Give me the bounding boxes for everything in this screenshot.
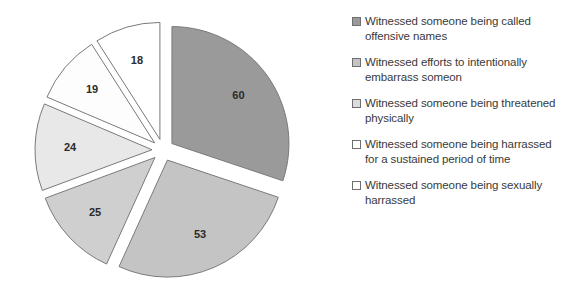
pie-slice-label-4: 19 xyxy=(86,83,98,95)
legend-item-2[interactable]: Witnessed someone being threatened physi… xyxy=(352,96,564,125)
pie-slice-0[interactable] xyxy=(172,27,289,181)
legend-swatch-icon-1 xyxy=(352,58,361,67)
legend-swatch-icon-0 xyxy=(352,17,361,26)
legend-swatch-icon-3 xyxy=(352,140,361,149)
chart-legend: Witnessed someone being called offensive… xyxy=(352,0,564,307)
legend-item-label-3: Witnessed someone being harrassed for a … xyxy=(365,137,564,166)
pie-slice-label-2: 25 xyxy=(89,206,101,218)
pie-slice-label-1: 53 xyxy=(194,228,206,240)
legend-item-0[interactable]: Witnessed someone being called offensive… xyxy=(352,14,564,43)
pie-slice-label-5: 18 xyxy=(131,54,143,66)
pie-chart-plot-area: 605325241918 xyxy=(0,0,340,307)
pie-slice-label-3: 24 xyxy=(64,141,77,153)
legend-item-3[interactable]: Witnessed someone being harrassed for a … xyxy=(352,137,564,166)
legend-item-4[interactable]: Witnessed someone being sexually harrass… xyxy=(352,178,564,207)
pie-chart-figure: 605325241918 Witnessed someone being cal… xyxy=(0,0,564,307)
pie-slice-label-0: 60 xyxy=(232,89,244,101)
legend-item-label-1: Witnessed efforts to intentionally embar… xyxy=(365,55,564,84)
legend-swatch-icon-2 xyxy=(352,99,361,108)
legend-item-label-2: Witnessed someone being threatened physi… xyxy=(365,96,564,125)
legend-item-label-4: Witnessed someone being sexually harrass… xyxy=(365,178,564,207)
pie-chart-svg: 605325241918 xyxy=(0,0,340,307)
legend-swatch-icon-4 xyxy=(352,181,361,190)
legend-item-label-0: Witnessed someone being called offensive… xyxy=(365,14,564,43)
legend-item-1[interactable]: Witnessed efforts to intentionally embar… xyxy=(352,55,564,84)
